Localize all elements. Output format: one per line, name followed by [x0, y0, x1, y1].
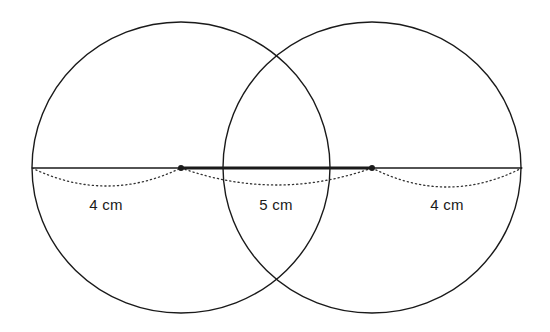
left-center-point — [178, 165, 184, 171]
right-center-point — [369, 165, 375, 171]
middle-dimension-arc — [181, 168, 372, 185]
left-measure-label: 4 cm — [89, 196, 123, 213]
left-dimension-arc — [32, 168, 181, 186]
right-dimension-arc — [372, 168, 522, 187]
diagram-canvas: 4 cm 5 cm 4 cm — [0, 0, 550, 332]
right-measure-label: 4 cm — [430, 196, 464, 213]
middle-measure-label: 5 cm — [259, 196, 293, 213]
two-circles-figure — [0, 0, 550, 332]
